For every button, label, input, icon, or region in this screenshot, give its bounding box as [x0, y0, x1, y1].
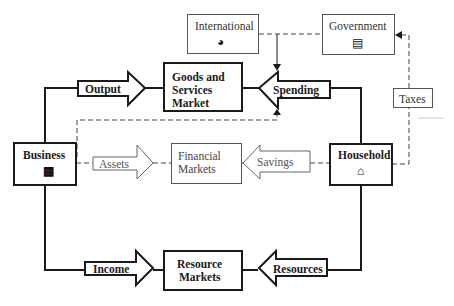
business-node: Business ▩ — [13, 142, 77, 186]
spending-label: Spending — [273, 84, 319, 96]
resource-markets-line1: Resource — [177, 258, 222, 270]
goods-market-line3: Market — [172, 97, 209, 109]
financial-markets-line2: Markets — [178, 163, 216, 175]
goods-market-line2: Services — [172, 84, 212, 96]
taxes-node: Taxes — [393, 88, 433, 108]
taxes-label: Taxes — [399, 93, 426, 105]
arrowhead-left-government — [395, 31, 402, 39]
government-label: Government — [329, 20, 386, 32]
financial-markets-node: Financial Markets — [171, 143, 242, 184]
globe-icon: ◕ — [217, 36, 224, 48]
goods-services-market-node: Goods and Services Market — [163, 62, 243, 112]
assets-label: Assets — [99, 158, 129, 170]
household-node: Household ⌂ — [329, 143, 393, 186]
savings-label: Savings — [257, 156, 293, 168]
output-label: Output — [85, 83, 121, 95]
government-node: Government ▤ — [322, 14, 395, 55]
resource-markets-node: Resource Markets — [163, 250, 243, 291]
resources-label: Resources — [273, 263, 323, 275]
household-label: Household — [338, 149, 390, 161]
international-node: International ◕ — [187, 14, 259, 54]
income-label: Income — [93, 263, 129, 275]
resource-markets-line2: Markets — [179, 271, 221, 283]
arrowhead-down — [273, 64, 281, 71]
factory-icon: ▩ — [43, 165, 54, 177]
arrowhead-up — [273, 109, 281, 115]
goods-market-line1: Goods and — [172, 71, 225, 83]
house-icon: ⌂ — [357, 165, 364, 177]
financial-markets-line1: Financial — [178, 150, 221, 162]
building-icon: ▤ — [352, 37, 363, 49]
business-output-line — [45, 88, 78, 142]
business-label: Business — [23, 149, 65, 161]
international-label: International — [195, 20, 254, 32]
